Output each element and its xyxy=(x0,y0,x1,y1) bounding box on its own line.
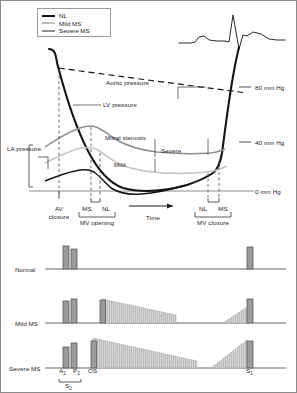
phono-row-label-normal: Normal xyxy=(15,266,36,273)
aortic-pressure-curve xyxy=(59,68,247,93)
sound-bar-s1 xyxy=(247,247,253,269)
legend-swatch-mild-ms xyxy=(42,22,55,24)
sound-bar-p2 xyxy=(71,343,77,368)
sound-label-a2: A2 xyxy=(59,367,66,374)
sound-label-s2: S2 xyxy=(65,382,72,389)
phono-row-label-mild-ms: Mild MS xyxy=(15,320,38,327)
sound-label-s1: S1 xyxy=(246,367,253,374)
phonocardiogram-panel xyxy=(1,237,297,387)
sound-label-os: OS xyxy=(88,367,97,374)
scale-label-0: 0 mm Hg xyxy=(255,188,281,195)
sound-bar-p2 xyxy=(71,249,77,269)
sound-bar-a2 xyxy=(63,347,69,368)
aortic-pressure-leader xyxy=(178,87,206,99)
phono-row-label-severe-ms: Severe MS xyxy=(9,365,41,372)
legend-label-nl: NL xyxy=(59,12,67,20)
mv-closure-bracket-small xyxy=(208,198,219,202)
legend-item-mild-ms: Mild MS xyxy=(42,20,106,28)
mitral-stenosis-label: Mitral stenosis xyxy=(105,134,146,141)
phono-row-mild-ms xyxy=(45,299,286,323)
mild-label: Mild xyxy=(114,161,126,168)
murmur-diastolic-severe xyxy=(93,338,197,368)
scale-label-40: 40 mm Hg xyxy=(255,139,284,146)
axis-brackets xyxy=(1,207,297,223)
figure-container: NL Mild MS Severe MS xyxy=(0,0,297,393)
la-pressure-label-line1: LA pressure xyxy=(6,145,42,152)
sound-bar-os xyxy=(100,300,106,323)
la-pressure-mild-curve xyxy=(45,148,227,174)
sound-bar-a2 xyxy=(63,301,69,323)
pressure-tracing-panel xyxy=(1,41,297,211)
legend-item-severe-ms: Severe MS xyxy=(42,27,106,35)
lv-pressure-label: LV pressure xyxy=(103,101,137,108)
severe-label: Severe xyxy=(161,147,181,154)
lv-pressure-curve xyxy=(49,47,239,191)
mv-opening-bracket-small xyxy=(91,198,100,202)
legend-label-mild-ms: Mild MS xyxy=(59,20,81,28)
murmur-diastolic-mild xyxy=(102,299,176,323)
legend-swatch-nl xyxy=(42,15,55,18)
sound-bar-s1 xyxy=(247,341,253,368)
phono-row-normal xyxy=(45,246,286,269)
sound-bar-s1 xyxy=(247,299,253,323)
aortic-pressure-label: Aortic pressure xyxy=(106,79,149,86)
legend-label-severe-ms: Severe MS xyxy=(59,27,90,35)
legend: NL Mild MS Severe MS xyxy=(37,8,111,37)
legend-item-nl: NL xyxy=(42,12,106,20)
scale-label-80: 80 mm Hg xyxy=(255,84,284,91)
sound-bar-p2 xyxy=(71,299,77,323)
legend-swatch-severe-ms xyxy=(42,30,55,32)
sound-bar-a2 xyxy=(63,246,69,269)
sound-bar-os xyxy=(91,341,97,368)
murmur-presystolic-mild xyxy=(223,307,247,323)
sound-label-p2: P2 xyxy=(73,367,80,374)
murmur-presystolic-severe xyxy=(211,340,247,368)
